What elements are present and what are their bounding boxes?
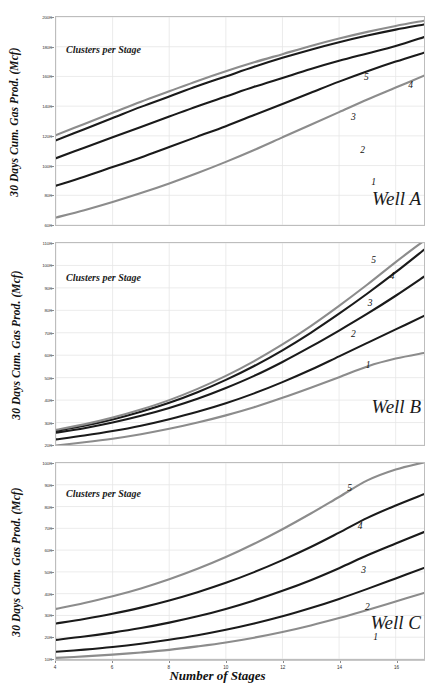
y-tick-mark bbox=[51, 310, 54, 311]
y-axis-title-c: 30 Days Cum. Gas Prod. (Mcf) bbox=[10, 462, 22, 662]
panel-well-a: 30 Days Cum. Gas Prod. (Mcf) 60K80K100K1… bbox=[0, 10, 435, 234]
y-tick-mark bbox=[51, 485, 54, 486]
curve-label-5: 5 bbox=[364, 72, 369, 82]
curve-clusters-3 bbox=[56, 532, 424, 640]
figure-root: 30 Days Cum. Gas Prod. (Mcf) 60K80K100K1… bbox=[0, 0, 435, 696]
curve-label-4: 4 bbox=[358, 521, 363, 531]
curve-label-1: 1 bbox=[366, 360, 371, 370]
plot-svg-a bbox=[56, 17, 424, 225]
y-tick-mark bbox=[51, 550, 54, 551]
y-tick-mark bbox=[51, 507, 54, 508]
plot-area-a bbox=[55, 16, 425, 226]
y-tick-mark bbox=[51, 136, 54, 137]
y-tick-mark bbox=[51, 637, 54, 638]
y-tick-mark bbox=[51, 615, 54, 616]
curve-label-2: 2 bbox=[365, 602, 370, 612]
y-tick-mark bbox=[51, 288, 54, 289]
x-axis-line bbox=[55, 660, 425, 661]
curve-clusters-4 bbox=[56, 250, 424, 431]
panel-well-c: 30 Days Cum. Gas Prod. (Mcf) 10K20K30K40… bbox=[0, 456, 435, 668]
y-tick-mark bbox=[51, 572, 54, 573]
y-axis-ticks-c: 10K20K30K40K50K60K70K80K90K100K bbox=[28, 456, 54, 668]
y-tick-mark bbox=[51, 265, 54, 266]
y-tick-mark bbox=[51, 333, 54, 334]
y-tick-mark bbox=[51, 17, 54, 18]
curve-label-1: 1 bbox=[371, 177, 376, 187]
curve-label-3: 3 bbox=[368, 298, 373, 308]
y-tick-mark bbox=[51, 195, 54, 196]
y-tick-mark bbox=[51, 166, 54, 167]
y-tick-mark bbox=[51, 463, 54, 464]
y-axis-ticks-a: 60K80K100K120K140K160K180K200K bbox=[28, 10, 54, 234]
plot-svg-b bbox=[56, 243, 424, 445]
y-tick-mark bbox=[51, 243, 54, 244]
y-axis-title-b: 30 Days Cum. Gas Prod. (Mcf) bbox=[10, 245, 22, 445]
plot-area-b bbox=[55, 242, 425, 446]
y-tick-mark bbox=[51, 76, 54, 77]
curve-label-2: 2 bbox=[360, 145, 365, 155]
curve-clusters-4 bbox=[56, 24, 424, 140]
y-axis-ticks-b: 20K30K40K50K60K70K80K90K100K110K bbox=[28, 236, 54, 454]
curve-clusters-5 bbox=[56, 243, 424, 430]
curve-label-1: 1 bbox=[373, 632, 378, 642]
panel-well-b: 30 Days Cum. Gas Prod. (Mcf) 20K30K40K50… bbox=[0, 236, 435, 454]
curve-clusters-3 bbox=[56, 37, 424, 158]
y-tick-mark bbox=[51, 225, 54, 226]
y-tick-mark bbox=[51, 400, 54, 401]
curve-label-3: 3 bbox=[361, 565, 366, 575]
plot-svg-c bbox=[56, 463, 424, 659]
y-tick-mark bbox=[51, 423, 54, 424]
y-axis-title-a: 30 Days Cum. Gas Prod. (Mcf) bbox=[8, 22, 20, 222]
y-tick-mark bbox=[51, 355, 54, 356]
y-tick-mark bbox=[51, 594, 54, 595]
y-tick-mark bbox=[51, 378, 54, 379]
curve-label-2: 2 bbox=[351, 329, 356, 339]
curve-label-5: 5 bbox=[347, 483, 352, 493]
curve-clusters-1 bbox=[56, 76, 424, 218]
y-tick-mark bbox=[51, 106, 54, 107]
curve-label-4: 4 bbox=[408, 80, 413, 90]
x-axis: 46810121416 Number of Stages bbox=[0, 660, 435, 696]
y-tick-mark bbox=[51, 528, 54, 529]
plot-area-c bbox=[55, 462, 425, 660]
curve-label-3: 3 bbox=[351, 112, 356, 122]
y-tick-mark bbox=[51, 47, 54, 48]
curve-label-5: 5 bbox=[371, 255, 376, 265]
y-tick-mark bbox=[51, 445, 54, 446]
x-axis-title: Number of Stages bbox=[0, 668, 435, 684]
curve-label-4: 4 bbox=[390, 271, 395, 281]
